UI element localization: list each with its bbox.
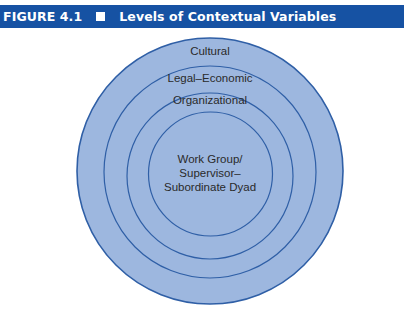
label-work-group-line2: Supervisor–: [179, 167, 241, 179]
label-work-group-line1: Work Group/: [178, 153, 244, 165]
label-cultural: Cultural: [190, 45, 230, 57]
label-work-group-line3: Subordinate Dyad: [164, 181, 256, 193]
label-organizational: Organizational: [173, 94, 247, 106]
label-legal-economic: Legal–Economic: [167, 72, 252, 84]
nested-circles-diagram: Cultural Legal–Economic Organizational W…: [0, 0, 404, 321]
